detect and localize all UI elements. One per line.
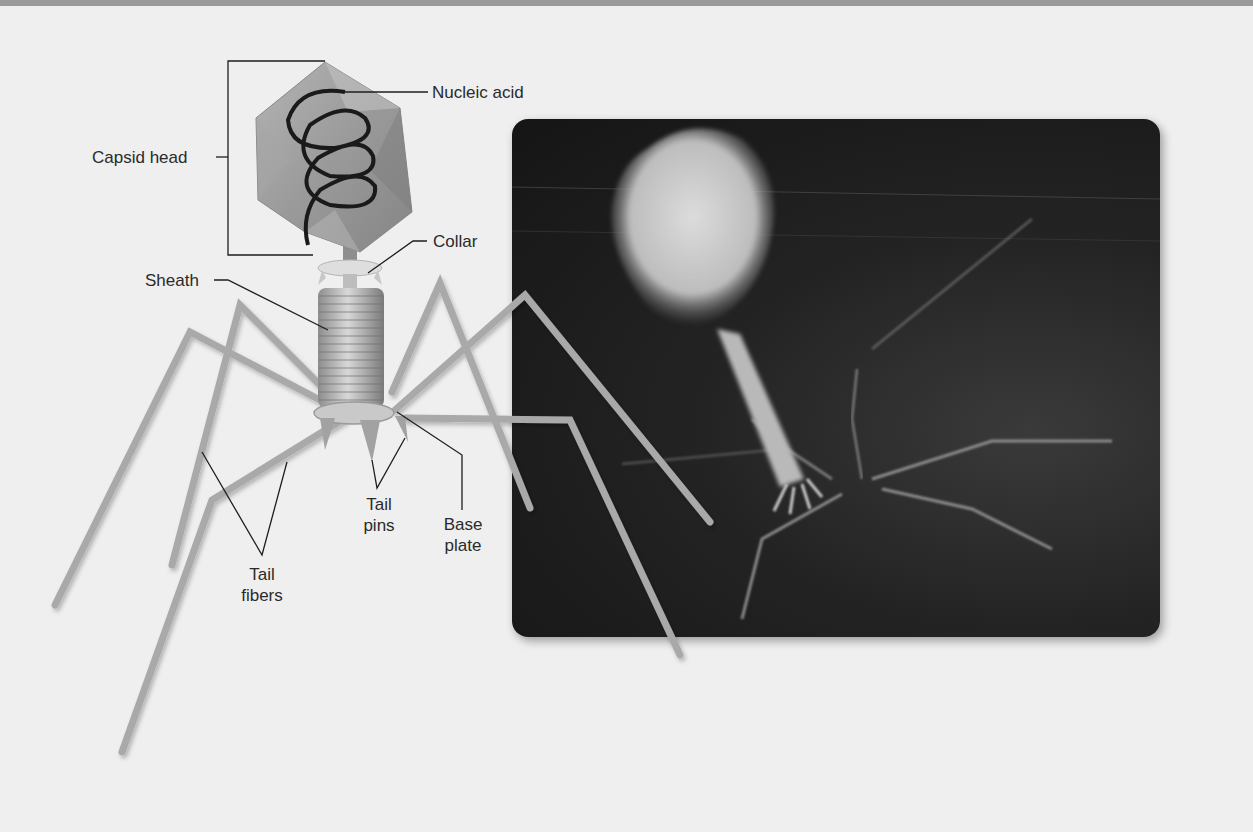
label-collar: Collar [433, 231, 477, 252]
label-tail-fibers-line2: fibers [232, 585, 292, 606]
label-nucleic-acid: Nucleic acid [432, 82, 524, 103]
phage-illustration [0, 0, 1253, 832]
sheath [318, 288, 384, 408]
label-tail-pins: Tail pins [354, 494, 404, 536]
label-sheath: Sheath [145, 270, 199, 291]
label-tail-pins-line2: pins [354, 515, 404, 536]
label-base-plate-line1: Base [438, 514, 488, 535]
label-capsid-head: Capsid head [92, 147, 187, 168]
label-base-plate: Base plate [438, 514, 488, 556]
label-tail-pins-line1: Tail [354, 494, 404, 515]
label-tail-fibers-line1: Tail [232, 564, 292, 585]
label-base-plate-line2: plate [438, 535, 488, 556]
label-tail-fibers: Tail fibers [232, 564, 292, 606]
